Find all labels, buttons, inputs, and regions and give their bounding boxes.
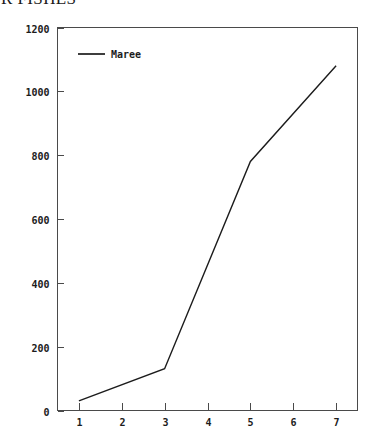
x-axis-ticks bbox=[80, 403, 337, 411]
y-tick-label: 0 bbox=[43, 407, 49, 418]
line-chart: 020040060080010001200 1234567 Maree bbox=[0, 0, 377, 436]
y-tick-label: 1200 bbox=[25, 24, 49, 35]
x-tick-label: 3 bbox=[162, 417, 168, 428]
x-tick-label: 7 bbox=[333, 417, 339, 428]
x-tick-label: 2 bbox=[119, 417, 125, 428]
chart-legend: Maree bbox=[78, 49, 141, 60]
y-tick-label: 1000 bbox=[25, 87, 49, 98]
x-axis-tick-labels: 1234567 bbox=[76, 417, 339, 428]
y-tick-label: 600 bbox=[31, 215, 49, 226]
series-path bbox=[79, 66, 336, 401]
x-tick-label: 1 bbox=[76, 417, 82, 428]
screenshot-root: R FISHES 020040060080010001200 1234567 M… bbox=[0, 0, 377, 436]
y-tick-label: 800 bbox=[31, 151, 49, 162]
y-tick-label: 400 bbox=[31, 279, 49, 290]
x-tick-label: 6 bbox=[290, 417, 296, 428]
legend-label: Maree bbox=[111, 49, 141, 60]
series-maree bbox=[79, 66, 336, 401]
x-tick-label: 5 bbox=[247, 417, 253, 428]
x-tick-label: 4 bbox=[205, 417, 211, 428]
plot-frame bbox=[58, 28, 358, 411]
y-axis-ticks bbox=[58, 29, 64, 412]
y-axis-tick-labels: 020040060080010001200 bbox=[25, 24, 49, 418]
y-tick-label: 200 bbox=[31, 343, 49, 354]
